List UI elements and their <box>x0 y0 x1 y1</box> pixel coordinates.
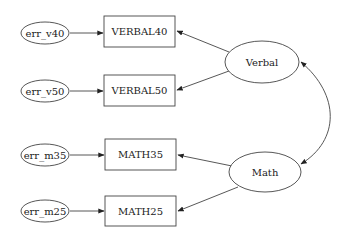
covariance-arrow <box>301 62 330 164</box>
error-node-err-v40: err_v40 <box>21 22 69 44</box>
error-node-err-v50: err_v50 <box>21 80 69 102</box>
latent-node-math: Math <box>229 152 301 192</box>
path-diagram: err_v40 err_v50 err_m35 err_m25 VERBAL40… <box>0 0 349 242</box>
edge-verbal-to-verbal40 <box>177 31 229 52</box>
node-label: VERBAL50 <box>111 85 168 96</box>
node-label: err_m35 <box>24 150 67 162</box>
node-label: err_m25 <box>24 206 67 218</box>
edge-math-to-math35 <box>178 155 232 166</box>
node-label: VERBAL40 <box>111 26 168 37</box>
node-label: MATH25 <box>118 206 163 217</box>
observed-node-verbal50: VERBAL50 <box>104 75 175 106</box>
edge-math-to-math25 <box>178 187 238 211</box>
observed-node-math35: MATH35 <box>105 139 176 170</box>
error-node-err-m35: err_m35 <box>21 144 69 166</box>
node-label: Math <box>252 167 279 178</box>
observed-node-math25: MATH25 <box>105 196 176 226</box>
node-label: err_v50 <box>26 86 65 98</box>
node-label: err_v40 <box>26 28 65 40</box>
edge-verbal-to-verbal50 <box>177 71 229 90</box>
node-label: Verbal <box>245 57 279 68</box>
node-label: MATH35 <box>118 149 163 160</box>
observed-node-verbal40: VERBAL40 <box>104 16 175 47</box>
error-node-err-m25: err_m25 <box>21 200 69 222</box>
latent-node-verbal: Verbal <box>225 41 299 83</box>
